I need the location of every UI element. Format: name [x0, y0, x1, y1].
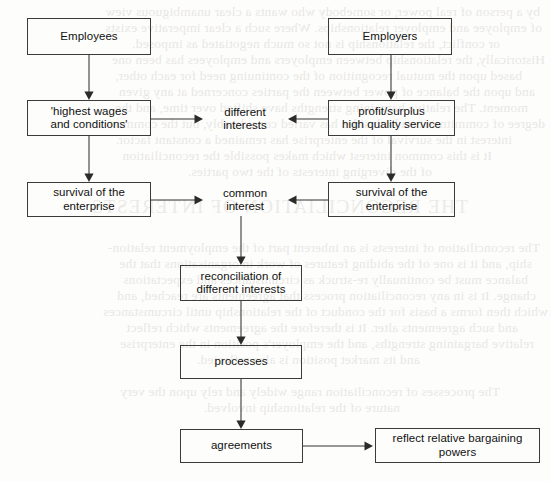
flowchart-node-employees: Employees — [27, 18, 151, 55]
flowchart-node-survival_right: survival of theenterprise — [328, 182, 455, 217]
flowchart-node-survival_left: survival of theenterprise — [27, 182, 151, 217]
flowchart-node-common_int: commoninterest — [206, 185, 284, 215]
flowchart-node-different_int: differentinterests — [206, 104, 284, 134]
flowchart-node-reconciliation: reconciliation ofdifferent interests — [180, 265, 302, 301]
flowchart-node-profit_surplus: profit/surplushigh quality service — [328, 100, 455, 136]
flowchart-node-employers: Employers — [328, 18, 452, 55]
scanned-diagram-page: by a person of real power, or somebody w… — [0, 0, 551, 481]
flowchart-node-processes: processes — [180, 345, 302, 379]
flowchart-nodes: EmployeesEmployers'highest wagesand cond… — [0, 0, 551, 481]
flowchart-node-bargaining: reflect relative bargaining powers — [375, 428, 540, 463]
flowchart-node-highest_wages: 'highest wagesand conditions' — [27, 100, 151, 136]
flowchart-node-agreements: agreements — [180, 429, 303, 463]
